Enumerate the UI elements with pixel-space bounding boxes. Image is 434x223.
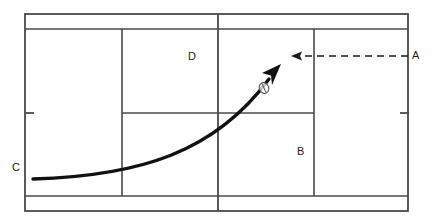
dashed-arrow-head-icon [291,52,302,61]
label-c: C [12,162,20,173]
court-diagram-svg [0,0,434,223]
dashed-arrow [291,52,408,61]
label-a: A [412,50,419,61]
curve-arrow-path [33,79,269,179]
curve-arrow [33,64,281,179]
court-lines [25,14,409,211]
label-d: D [188,51,196,62]
label-b: B [297,146,304,157]
diagram-canvas: A B C D [0,0,434,223]
